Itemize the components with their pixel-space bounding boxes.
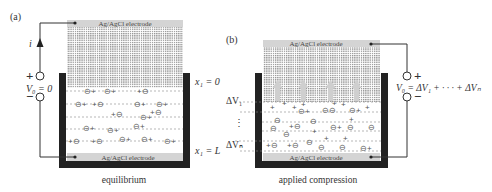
svg-text:⊖: ⊖ — [347, 123, 354, 132]
svg-text:+⊖: +⊖ — [91, 137, 103, 146]
svg-text:+: + — [282, 99, 287, 108]
contact-dot-top-a — [73, 21, 76, 24]
svg-text:+: + — [292, 103, 297, 112]
svg-text:⊖+: ⊖+ — [360, 144, 372, 153]
svg-text:⊖+: ⊖+ — [141, 135, 153, 144]
svg-text:+⊖: +⊖ — [289, 122, 301, 131]
contact-dot-bottom-a — [73, 155, 76, 158]
svg-text:+: + — [324, 134, 329, 143]
svg-text:⊖: ⊖ — [310, 117, 317, 126]
terminal-plus-a-sign: + — [26, 68, 33, 83]
panel-a-label: (a) — [10, 11, 21, 23]
delta-ellipsis: ⋮ — [234, 117, 244, 128]
svg-text:+: + — [343, 134, 348, 143]
caption-b: applied compression — [279, 175, 358, 185]
terminal-minus-b-sign: − — [414, 89, 421, 104]
panel-b-label: (b) — [226, 34, 238, 46]
svg-text:+: + — [365, 103, 370, 112]
terminal-plus-b — [403, 72, 411, 80]
svg-text:+⊖: +⊖ — [266, 141, 278, 150]
contact-dot-top-b — [369, 42, 372, 45]
svg-text:+⊖: +⊖ — [287, 141, 299, 150]
svg-text:⊖+: ⊖+ — [134, 100, 146, 109]
svg-text:+⊖: +⊖ — [137, 87, 149, 96]
svg-text:⊖+: ⊖+ — [83, 124, 95, 133]
top-electrode-a-label: Ag/AgCl electrode — [98, 20, 151, 28]
svg-text:⊖: ⊖ — [270, 124, 277, 133]
svg-text:+⊖: +⊖ — [92, 100, 104, 109]
svg-text:+⊖: +⊖ — [150, 108, 162, 117]
voltage-label-b: V₀ = ΔV₁ + · · · + ΔVₙ — [396, 83, 481, 93]
svg-text:+⊖: +⊖ — [68, 137, 80, 146]
bottom-electrode-a-label: Ag/AgCl electrode — [101, 154, 154, 162]
svg-text:⊖+: ⊖+ — [119, 135, 131, 144]
position-top-label: x₁ = 0 — [194, 76, 220, 87]
top-electrode-b-label: Ag/AgCl electrode — [289, 40, 342, 48]
svg-text:⊖: ⊖ — [283, 130, 290, 139]
svg-text:⊖+: ⊖+ — [104, 87, 116, 96]
svg-text:⊖: ⊖ — [339, 143, 346, 152]
svg-text:+⊖: +⊖ — [111, 110, 123, 119]
terminal-minus-b — [403, 93, 411, 101]
delta-v1-label: ΔV₁ — [226, 96, 242, 106]
mesh-a — [67, 27, 183, 88]
svg-text:⊖+: ⊖+ — [84, 87, 96, 96]
delta-vn-label: ΔVₙ — [226, 140, 243, 150]
svg-text:⊖+: ⊖+ — [349, 106, 361, 115]
mesh-b — [263, 47, 380, 102]
position-bottom-label: x₁ = L — [194, 145, 221, 156]
caption-a: equilibrium — [102, 175, 147, 185]
svg-text:⊖+: ⊖+ — [75, 100, 87, 109]
svg-text:⊖: ⊖ — [368, 123, 375, 132]
bottom-electrode-b-label: Ag/AgCl electrode — [289, 154, 342, 162]
contact-dot-bottom-b — [369, 155, 372, 158]
current-arrow-icon — [37, 38, 44, 47]
terminal-minus-a-sign: − — [26, 89, 33, 104]
svg-text:⊖+: ⊖+ — [164, 137, 176, 146]
svg-text:⊖: ⊖ — [306, 138, 313, 147]
svg-text:⊖+: ⊖+ — [330, 123, 342, 132]
svg-text:⊖+: ⊖+ — [140, 113, 152, 122]
svg-text:⊖⊖: ⊖⊖ — [322, 106, 336, 115]
svg-text:⊖+: ⊖+ — [107, 126, 119, 135]
svg-text:⊖+: ⊖+ — [133, 122, 145, 131]
panel-a: (a) Ag/AgCl electrode ⊖+⊖++⊖ ⊖++⊖⊖+⊖+ +⊖… — [10, 11, 221, 185]
svg-text:⊖+: ⊖+ — [298, 107, 310, 116]
current-label: i — [29, 38, 32, 49]
figure-canvas: (a) Ag/AgCl electrode ⊖+⊖++⊖ ⊖++⊖⊖+⊖+ +⊖… — [0, 0, 492, 192]
terminal-minus-a — [36, 93, 44, 101]
svg-text:+: + — [312, 127, 317, 136]
svg-text:+: + — [341, 100, 346, 109]
terminal-plus-a — [36, 72, 44, 80]
svg-text:⊖: ⊖ — [318, 143, 325, 152]
panel-b: (b) Ag/AgCl electrode +++++++ ⊖+⊖⊖⊖+ — [226, 34, 481, 185]
terminal-plus-b-sign: + — [414, 68, 421, 83]
svg-text:+: + — [270, 103, 275, 112]
